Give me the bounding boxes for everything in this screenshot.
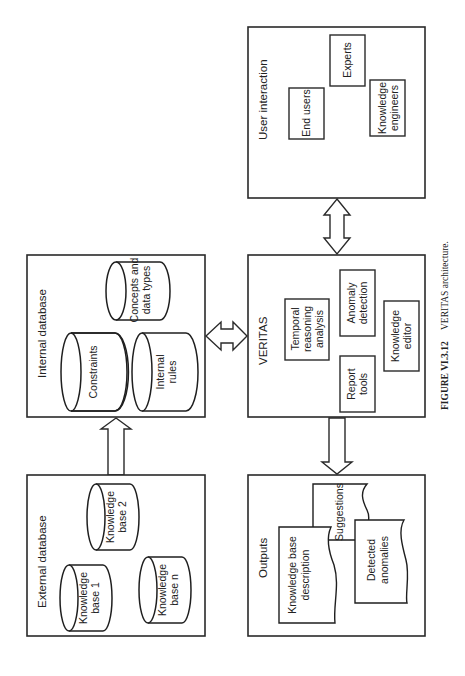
anomaly-label-2: detection [357,282,369,325]
anomaly-label-1: Anomaly [345,282,357,324]
internal-database-title: Internal database [36,289,48,378]
report-tools-node: Report tools [340,356,375,412]
detected-anomalies-document: Detected anomalies [355,520,408,603]
kbd-label-2: description [299,549,311,600]
end-users-label: End users [300,89,312,136]
editor-label-1: Knowledge [389,310,401,362]
anomaly-detection-node: Anomaly detection [340,270,375,336]
concepts-datatypes-cylinder: Concepts and data types [106,257,170,322]
internal-database-box: Internal database Concepts and data type… [27,255,205,417]
caption-text: VERITAS architecture. [440,241,450,330]
kbn-label-1: Knowledge [156,564,168,616]
kb2-label-2: base 2 [116,501,128,533]
report-label-1: Report [345,368,357,400]
concepts-label-1: Concepts and [128,257,140,322]
concepts-label-2: data types [140,266,152,314]
veritas-title: VERITAS [257,316,269,365]
experts-label: Experts [341,42,353,78]
temporal-reasoning-node: Temporal reasoning analysis [285,299,329,360]
external-database-box: External database Knowledge base 1 Knowl… [27,475,205,636]
anomalies-label-1: Detected [365,539,377,581]
figure-caption: FIGURE VI.3.12 VERITAS architecture. [440,241,450,410]
kb1-label-2: base 1 [89,582,101,614]
experts-node: Experts [330,35,365,86]
knowledge-engineers-node: Knowledge engineers [370,80,405,136]
kbd-label-1: Knowledge base [286,536,298,614]
rules-label-2: rules [166,361,178,384]
suggestions-label: Suggestions [333,483,345,541]
kb1-label-1: Knowledge [77,572,89,624]
knowledge-engineers-label-1: Knowledge [376,82,388,134]
end-users-node: End users [289,88,324,139]
knowledge-base-n-cylinder: Knowledge base n [139,557,191,623]
kbn-label-2: base n [168,574,180,606]
temporal-label-2: reasoning [301,306,313,352]
external-database-title: External database [36,515,48,608]
veritas-architecture-diagram: User interaction End users Experts Knowl… [0,0,465,676]
internal-rules-cylinder: Internal rules [132,333,198,411]
internaldb-veritas-bidirectional-arrow [206,322,247,350]
knowledge-base-1-cylinder: Knowledge base 1 [60,565,112,631]
caption-label: FIGURE VI.3.12 [440,341,450,410]
kb2-label-1: Knowledge [104,491,116,543]
veritas-box: VERITAS Temporal reasoning analysis Anom… [248,255,425,417]
constraints-cylinder: Constraints [61,333,128,411]
user-interaction-box: User interaction End users Experts Knowl… [248,27,425,198]
veritas-to-outputs-arrow [322,418,352,474]
report-label-2: tools [357,373,369,395]
knowledge-base-description-document: Knowledge base description [279,527,336,623]
temporal-label-1: Temporal [289,307,301,350]
anomalies-label-2: anomalies [378,536,390,584]
editor-label-2: editor [401,322,413,349]
constraints-label: Constraints [87,345,99,398]
outputs-box: Outputs Suggestions Knowledge base descr… [248,475,425,636]
externaldb-to-internaldb-arrow [101,418,131,475]
ui-veritas-bidirectional-arrow [324,199,350,254]
user-interaction-title: User interaction [257,59,269,140]
knowledge-editor-node: Knowledge editor [384,301,419,371]
knowledge-base-2-cylinder: Knowledge base 2 [87,484,139,550]
outputs-title: Outputs [257,537,269,578]
temporal-label-3: analysis [313,310,325,348]
knowledge-engineers-label-2: engineers [388,85,400,131]
rules-label-1: Internal [154,354,166,389]
